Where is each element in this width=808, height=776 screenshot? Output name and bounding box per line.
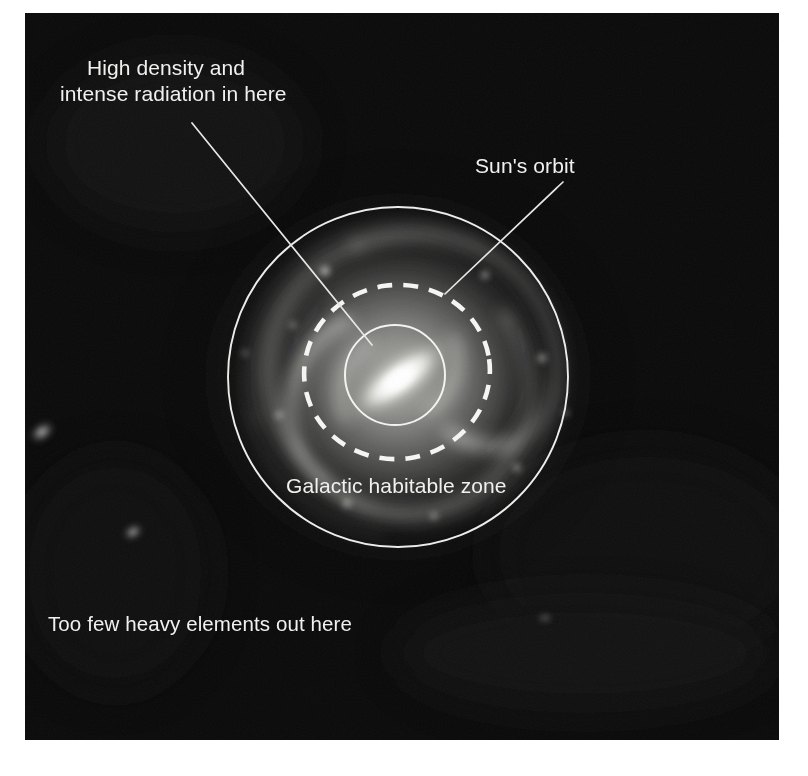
galaxy-image-panel: High density and intense radiation in he… bbox=[25, 13, 779, 740]
galaxy-diagram-svg: High density and intense radiation in he… bbox=[25, 13, 779, 740]
figure-root: High density and intense radiation in he… bbox=[0, 0, 808, 776]
